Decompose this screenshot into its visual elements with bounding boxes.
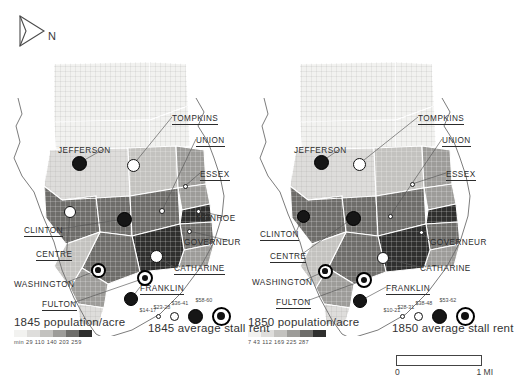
market-label-essex: ESSEX xyxy=(200,170,230,181)
market-symbol-franklin[interactable] xyxy=(353,294,367,308)
market-label-franklin: FRANKLIN xyxy=(386,284,430,295)
population-legend-1845: 1845 population/acremin 29 110 140 203 2… xyxy=(14,316,125,345)
stall-rent-legend-symbol xyxy=(170,312,179,321)
scale-bar: 0 1 MI xyxy=(396,355,482,379)
market-label-clinton: CLINTON xyxy=(260,230,299,241)
stall-rent-legend-symbol xyxy=(188,309,203,324)
stall-rent-legend-symbol xyxy=(432,309,447,324)
stall-rent-legend-1845: $14-17$23-28$36-41$58-601845 average sta… xyxy=(148,296,270,334)
market-label-clinton: CLINTON xyxy=(24,226,63,237)
stall-rent-legend-label: $58-60 xyxy=(196,297,213,303)
stall-rent-legend-label: $53-62 xyxy=(440,297,457,303)
market-label-union: UNION xyxy=(442,136,471,147)
population-legend-swatch xyxy=(53,330,66,337)
market-label-centre: CENTRE xyxy=(36,250,72,261)
north-arrow-label: N xyxy=(48,30,56,42)
population-legend-swatch xyxy=(313,330,326,337)
market-label-washington: WASHINGTON xyxy=(14,280,74,289)
population-legend-swatch xyxy=(66,330,79,337)
stall-rent-legend-symbol xyxy=(212,307,231,326)
scale-bar-max-label: 1 MI xyxy=(476,367,493,377)
market-label-tompkins: TOMPKINS xyxy=(418,114,464,125)
market-symbol-union[interactable] xyxy=(388,214,393,219)
stall-rent-legend-title: 1850 average stall rent xyxy=(392,322,514,334)
population-legend-swatch xyxy=(300,330,313,337)
population-legend-breaks: min 29 110 140 203 259 xyxy=(14,339,125,345)
market-symbol-essex[interactable] xyxy=(410,182,415,187)
stall-rent-legend-label: $38-48 xyxy=(416,300,433,306)
market-symbol-clinton[interactable] xyxy=(117,212,132,227)
market-symbol-clinton[interactable] xyxy=(297,210,310,223)
market-symbol-washington[interactable] xyxy=(318,264,333,279)
stall-rent-legend-symbol xyxy=(156,314,161,319)
population-legend-swatch xyxy=(27,330,40,337)
market-label-jefferson: JEFFERSON xyxy=(58,146,111,155)
market-label-catharine: CATHARINE xyxy=(174,264,225,275)
population-legend-swatch xyxy=(287,330,300,337)
market-label-governeur: GOVERNEUR xyxy=(430,238,487,247)
map-panel-1850: TOMPKINSUNIONESSEXGOVERNEURCATHARINEFRAN… xyxy=(246,46,492,336)
stall-rent-symbol-row: $10-21$28-31$38-48$53-62 xyxy=(392,296,512,322)
scale-bar-labels: 0 1 MI xyxy=(396,367,480,379)
market-symbol-tompkins[interactable] xyxy=(353,158,366,171)
market-label-union: UNION xyxy=(196,136,225,147)
stall-rent-legend-label: $28-31 xyxy=(398,304,415,310)
market-symbol-franklin[interactable] xyxy=(124,292,138,306)
market-symbol-tompkins[interactable] xyxy=(127,159,140,172)
stall-rent-legend-symbol xyxy=(456,307,475,326)
market-symbol-fulton[interactable] xyxy=(137,270,153,286)
market-label-jefferson: JEFFERSON xyxy=(294,146,347,155)
market-symbol-monroe[interactable] xyxy=(196,209,201,214)
market-symbol-washington[interactable] xyxy=(91,263,106,278)
population-legend-swatches xyxy=(14,330,125,337)
stall-rent-legend-symbol xyxy=(414,312,423,321)
stall-rent-legend-symbol xyxy=(400,314,405,319)
market-symbol-jefferson[interactable] xyxy=(72,156,87,171)
market-label-monroe: MONROE xyxy=(196,214,236,223)
scale-bar-min-label: 0 xyxy=(395,367,400,377)
market-symbol-governeur[interactable] xyxy=(419,230,424,235)
market-symbol-centre[interactable] xyxy=(64,206,76,218)
market-symbol-jefferson[interactable] xyxy=(314,155,329,170)
market-label-essex: ESSEX xyxy=(446,170,476,181)
market-label-governeur: GOVERNEUR xyxy=(184,238,241,247)
stall-rent-legend-label: $23-28 xyxy=(154,304,171,310)
market-label-tompkins: TOMPKINS xyxy=(172,114,218,125)
market-label-fulton: FULTON xyxy=(42,300,77,311)
population-legend-swatch xyxy=(274,330,287,337)
market-label-catharine: CATHARINE xyxy=(420,264,471,273)
market-symbol-essex[interactable] xyxy=(183,184,188,189)
stall-rent-symbol-row: $14-17$23-28$36-41$58-60 xyxy=(148,296,268,322)
stall-rent-legend-label: $36-41 xyxy=(172,300,189,306)
market-label-washington: WASHINGTON xyxy=(252,278,312,287)
label-leader-lines xyxy=(246,46,492,336)
stall-rent-legend-1850: $10-21$28-31$38-48$53-621850 average sta… xyxy=(392,296,514,334)
population-legend-swatch xyxy=(14,330,27,337)
population-legend-title: 1845 population/acre xyxy=(14,316,125,328)
market-symbol-catharine[interactable] xyxy=(150,250,163,263)
market-symbol-fulton[interactable] xyxy=(356,272,372,288)
market-symbol-governeur[interactable] xyxy=(187,229,192,234)
market-label-centre: CENTRE xyxy=(270,252,306,263)
population-legend-swatch xyxy=(40,330,53,337)
population-legend-swatch xyxy=(79,330,92,337)
scale-bar-track xyxy=(396,355,482,366)
market-label-fulton: FULTON xyxy=(276,298,311,309)
population-legend-breaks: 7 43 112 169 225 287 xyxy=(248,339,359,345)
label-leader-lines xyxy=(0,46,246,336)
market-symbol-union[interactable] xyxy=(159,208,165,214)
stall-rent-legend-title: 1845 average stall rent xyxy=(148,322,270,334)
market-symbol-catharine[interactable] xyxy=(377,252,389,264)
map-panel-1845: TOMPKINSUNIONESSEXMONROEGOVERNEURCATHARI… xyxy=(0,46,246,336)
market-symbol-centre[interactable] xyxy=(346,211,361,226)
